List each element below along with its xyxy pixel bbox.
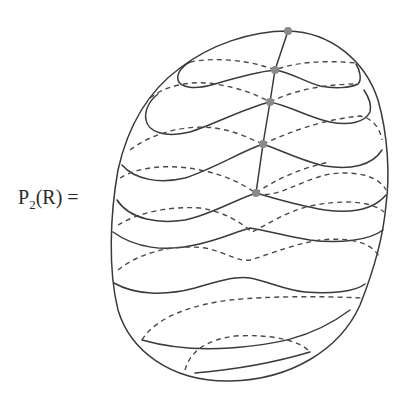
dashed-curve-6 bbox=[142, 297, 362, 340]
marked-point-3 bbox=[266, 98, 274, 106]
dashed-curve-5b bbox=[118, 239, 380, 270]
marked-point-1 bbox=[284, 27, 292, 35]
solid-curve-2 bbox=[146, 94, 270, 134]
marked-point-4 bbox=[259, 140, 267, 148]
solid-curve-8 bbox=[195, 352, 310, 373]
solid-curve-2b bbox=[270, 90, 371, 124]
solid-curve-1b bbox=[275, 64, 360, 88]
outer-outline bbox=[111, 31, 388, 381]
central-curve bbox=[256, 31, 288, 193]
marked-point-5 bbox=[252, 189, 260, 197]
solid-curve-7 bbox=[142, 310, 350, 349]
marked-point-2 bbox=[271, 66, 279, 74]
solid-curve-4 bbox=[117, 193, 256, 221]
solid-curve-3 bbox=[122, 144, 263, 181]
dashed-curve-4c bbox=[256, 173, 386, 195]
solid-curve-5 bbox=[113, 228, 383, 248]
projective-plane-diagram bbox=[0, 0, 404, 394]
solid-curve-4b bbox=[256, 193, 386, 211]
solid-curve-6 bbox=[114, 278, 365, 294]
dashed-curve-4a bbox=[120, 167, 256, 193]
dashed-curve-7 bbox=[185, 336, 310, 370]
